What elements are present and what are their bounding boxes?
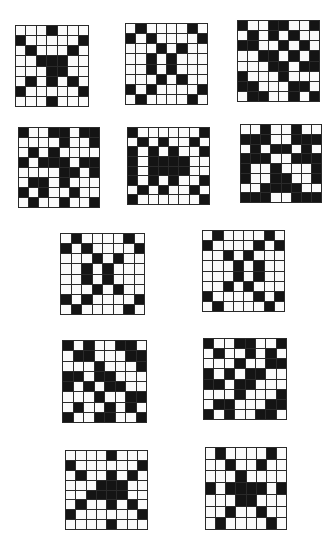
empty-cell	[271, 154, 280, 163]
empty-cell	[179, 128, 188, 137]
filled-cell	[128, 167, 137, 176]
empty-cell	[68, 87, 77, 96]
empty-cell	[271, 193, 280, 202]
empty-cell	[74, 382, 84, 391]
empty-cell	[26, 56, 35, 65]
filled-cell	[39, 188, 48, 197]
empty-cell	[126, 362, 136, 371]
empty-cell	[147, 95, 156, 104]
empty-cell	[149, 195, 158, 204]
filled-cell	[248, 41, 257, 50]
empty-cell	[93, 305, 103, 314]
filled-cell	[310, 21, 319, 30]
filled-cell	[224, 251, 233, 260]
empty-cell	[302, 164, 311, 173]
empty-cell	[206, 507, 215, 518]
empty-cell	[198, 44, 207, 53]
filled-cell	[200, 195, 209, 204]
filled-cell	[216, 518, 225, 529]
filled-cell	[203, 241, 212, 250]
empty-cell	[126, 54, 135, 63]
empty-cell	[246, 359, 255, 368]
pattern-grid-5	[127, 127, 210, 205]
empty-cell	[93, 244, 103, 253]
empty-cell	[236, 507, 245, 518]
empty-cell	[300, 92, 309, 101]
empty-cell	[72, 264, 82, 273]
filled-cell	[226, 460, 235, 471]
empty-cell	[16, 67, 25, 76]
filled-cell	[60, 198, 69, 207]
filled-cell	[277, 359, 286, 368]
empty-cell	[105, 392, 115, 401]
filled-cell	[16, 36, 25, 45]
empty-cell	[68, 56, 77, 65]
empty-cell	[19, 198, 28, 207]
empty-cell	[76, 491, 85, 500]
empty-cell	[117, 471, 126, 480]
filled-cell	[235, 380, 244, 389]
empty-cell	[114, 275, 124, 284]
filled-cell	[63, 341, 73, 350]
filled-cell	[74, 351, 84, 360]
filled-cell	[204, 380, 213, 389]
filled-cell	[84, 351, 94, 360]
pattern-grid-4	[18, 127, 100, 208]
filled-cell	[238, 41, 247, 50]
empty-cell	[169, 186, 178, 195]
filled-cell	[256, 410, 265, 419]
empty-cell	[126, 44, 135, 53]
empty-cell	[147, 75, 156, 84]
filled-cell	[241, 135, 250, 144]
filled-cell	[60, 168, 69, 177]
filled-cell	[206, 483, 215, 494]
empty-cell	[159, 147, 168, 156]
filled-cell	[302, 145, 311, 154]
empty-cell	[247, 471, 256, 482]
empty-cell	[61, 305, 71, 314]
filled-cell	[179, 157, 188, 166]
filled-cell	[68, 77, 77, 86]
filled-cell	[138, 461, 147, 470]
filled-cell	[200, 128, 209, 137]
empty-cell	[246, 400, 255, 409]
empty-cell	[138, 471, 147, 480]
filled-cell	[251, 135, 260, 144]
filled-cell	[72, 234, 82, 243]
empty-cell	[49, 138, 58, 147]
filled-cell	[90, 138, 99, 147]
filled-cell	[254, 261, 263, 270]
empty-cell	[95, 341, 105, 350]
empty-cell	[76, 510, 85, 519]
empty-cell	[76, 520, 85, 529]
empty-cell	[49, 168, 58, 177]
filled-cell	[137, 392, 147, 401]
empty-cell	[128, 520, 137, 529]
empty-cell	[266, 390, 275, 399]
filled-cell	[271, 184, 280, 193]
filled-cell	[149, 157, 158, 166]
filled-cell	[137, 351, 147, 360]
empty-cell	[97, 520, 106, 529]
empty-cell	[136, 54, 145, 63]
filled-cell	[47, 67, 56, 76]
empty-cell	[128, 461, 137, 470]
pattern-grid-9	[62, 340, 147, 423]
filled-cell	[74, 403, 84, 412]
empty-cell	[93, 264, 103, 273]
empty-cell	[70, 128, 79, 137]
empty-cell	[137, 341, 147, 350]
empty-cell	[68, 97, 77, 106]
filled-cell	[82, 295, 92, 304]
empty-cell	[257, 518, 266, 529]
empty-cell	[203, 282, 212, 291]
empty-cell	[157, 54, 166, 63]
filled-cell	[234, 261, 243, 270]
filled-cell	[204, 410, 213, 419]
empty-cell	[95, 403, 105, 412]
filled-cell	[247, 483, 256, 494]
filled-cell	[103, 264, 113, 273]
empty-cell	[126, 372, 136, 381]
filled-cell	[70, 168, 79, 177]
empty-cell	[124, 275, 134, 284]
